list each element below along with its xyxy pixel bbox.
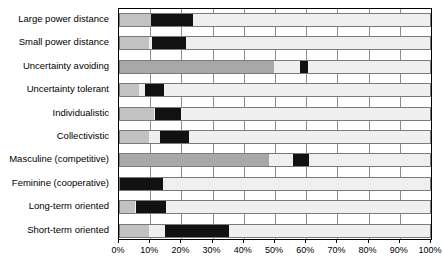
x-axis-tick <box>149 239 150 243</box>
bar-segment-gray <box>120 154 269 166</box>
bar-segment-gray <box>120 108 154 120</box>
bar-row <box>119 224 431 238</box>
bar-segment-gray <box>120 225 149 237</box>
category-label: Masculine (competitive) <box>9 153 109 164</box>
x-axis-tick-label: 50% <box>265 245 283 255</box>
x-axis-tick-label: 60% <box>296 245 314 255</box>
bar-segment-gray <box>120 131 149 143</box>
x-axis-tick-label: 100% <box>418 245 441 255</box>
cultural-dimensions-bar-chart: Large power distanceSmall power distance… <box>0 0 442 263</box>
bar-segment-black <box>145 84 164 96</box>
category-label: Small power distance <box>19 36 109 47</box>
bar-segment-gray <box>120 84 139 96</box>
plot-area <box>118 8 432 240</box>
bar-segment-black <box>300 61 308 73</box>
category-label: Individualistic <box>53 107 110 118</box>
x-axis-tick-label: 30% <box>203 245 221 255</box>
x-axis-tick <box>430 239 431 243</box>
x-axis-tick <box>336 239 337 243</box>
bar-segment-black <box>152 37 185 49</box>
x-axis-tick <box>118 239 119 243</box>
category-label: Short-term oriented <box>27 224 109 235</box>
bar-segment-black <box>293 154 310 166</box>
x-axis-tick <box>368 239 369 243</box>
bar-segment-black <box>136 201 166 213</box>
bar-row <box>119 36 431 50</box>
bar-segment-gray <box>120 37 149 49</box>
x-axis-tick-label: 80% <box>359 245 377 255</box>
bar-row <box>119 200 431 214</box>
x-axis-tick <box>305 239 306 243</box>
bar-segment-gray <box>120 14 151 26</box>
x-axis: 0%10%20%30%40%50%60%70%80%90%100% <box>118 239 430 263</box>
category-label: Uncertainty avoiding <box>23 60 109 71</box>
x-axis-tick-label: 70% <box>327 245 345 255</box>
x-axis-tick-label: 0% <box>111 245 124 255</box>
x-axis-tick-label: 10% <box>140 245 158 255</box>
bar-segment-gray <box>120 61 274 73</box>
bar-row <box>119 83 431 97</box>
x-axis-tick <box>212 239 213 243</box>
x-axis-tick <box>399 239 400 243</box>
bar-row <box>119 60 431 74</box>
bar-segment-black <box>151 14 193 26</box>
bar-row <box>119 107 431 121</box>
category-label: Large power distance <box>18 13 109 24</box>
category-label: Feminine (cooperative) <box>12 177 109 188</box>
x-axis-tick-label: 40% <box>234 245 252 255</box>
x-axis-tick <box>180 239 181 243</box>
bar-row <box>119 130 431 144</box>
bar-segment-black <box>155 108 181 120</box>
category-label: Uncertainty tolerant <box>27 83 109 94</box>
category-label: Collectivistic <box>57 130 109 141</box>
category-axis-labels: Large power distanceSmall power distance… <box>0 0 114 240</box>
bar-row <box>119 153 431 167</box>
bar-segment-gray <box>120 201 135 213</box>
x-axis-tick <box>274 239 275 243</box>
bar-row <box>119 177 431 191</box>
x-axis-tick <box>243 239 244 243</box>
bar-segment-black <box>120 178 163 190</box>
bar-segment-black <box>165 225 229 237</box>
x-axis-tick-label: 90% <box>390 245 408 255</box>
x-axis-tick-label: 20% <box>171 245 189 255</box>
bar-row <box>119 13 431 27</box>
category-label: Long-term oriented <box>29 200 109 211</box>
bar-segment-black <box>160 131 189 143</box>
